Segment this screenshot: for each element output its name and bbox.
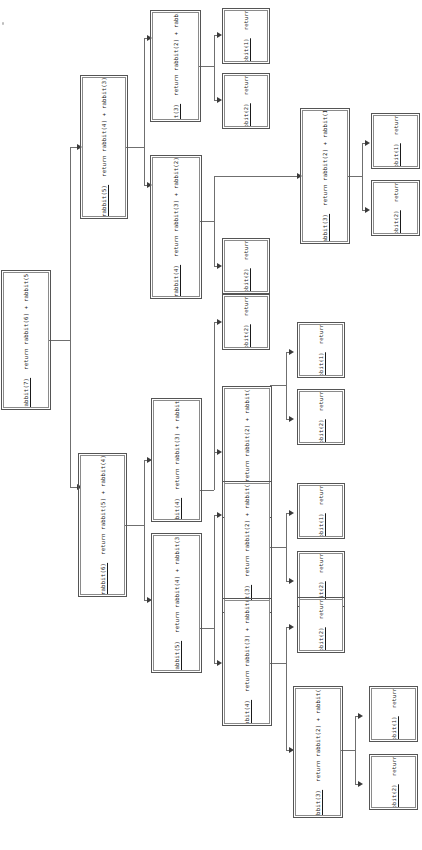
node-title: rabbit(6) [100,559,106,595]
node-body: return rabbit(4) + rabbit(3) [101,77,107,181]
tree-node-n18[interactable]: rabbit(1)return 1 [299,485,343,537]
node-body: return 1 [318,324,324,348]
node-title: rabbit(2) [243,99,249,127]
node-body: return 1 [243,10,249,34]
node-title: rabbit(3) [315,786,321,816]
edge-n20-trunk [270,663,286,664]
node-body: return 1 [318,485,324,509]
recursion-tree-diagram: rabbit(7)return rabbit(6) + rabbit(5) ra… [0,0,422,850]
arrow-n2-n3 [217,32,222,38]
arrow-n10-n11 [147,457,152,463]
tree-node-n10[interactable]: rabbit(6)return rabbit(5) + rabbit(4) [80,455,125,595]
edge-n16-trunk [200,628,214,629]
tree-node-n2[interactable]: rabbit(3)return rabbit(2) + rabbit(1) [152,12,199,120]
node-title: rabbit(4) [174,494,180,520]
arrow-n20-n22 [289,747,294,753]
node-body: return 1 [393,182,399,206]
tree-node-n14[interactable]: rabbit(1)return 1 [299,324,343,376]
edge-n2-spine [214,35,215,100]
node-title: rabbit(1) [391,712,397,740]
node-body: return rabbit(2) + rabbit(1) [173,12,179,100]
edge-n1-trunk [125,147,144,148]
arrow-n10-n16 [147,597,152,603]
arrow-n17-n19 [289,578,294,584]
tree-node-n22[interactable]: rabbit(3)return rabbit(2) + rabbit(1) [295,688,341,816]
tree-node-n16[interactable]: rabbit(5)return rabbit(4) + rabbit(3) [153,535,200,671]
node-title: rabbit(1) [318,509,324,537]
tree-node-n23[interactable]: rabbit(1)return 1 [371,688,416,740]
edge-n0-trunk [48,340,70,341]
node-body: return rabbit(5) + rabbit(4) [100,455,106,559]
edge-n11-spine [214,322,215,490]
node-title: rabbit(2) [391,780,397,808]
edge-n13-spine [286,352,287,419]
arrow-n7-n9 [365,207,370,213]
tree-node-n7[interactable]: rabbit(3)return rabbit(2) + rabbit(1) [302,110,348,242]
tree-node-n21[interactable]: rabbit(2)return 1 [299,599,343,651]
tree-node-n11[interactable]: rabbit(4)return rabbit(3) + rabbit(2) [153,400,200,520]
tree-node-n1[interactable]: rabbit(5)return rabbit(4) + rabbit(3) [82,77,126,217]
node-title: rabbit(3) [173,100,179,120]
tree-node-n20[interactable]: rabbit(4)return rabbit(3) + rabbit(2) [224,600,270,724]
edge-n10-trunk [125,525,144,526]
node-title: rabbit(2) [393,206,399,234]
node-title: rabbit(2) [243,320,249,348]
arrow-n20-n21 [289,624,294,630]
node-body: return 1 [393,115,399,139]
arrow-n2-n4 [217,97,222,103]
arrow-n13-n14 [289,349,294,355]
arrow-n5-n6 [217,263,222,269]
node-title: rabbit(4) [173,261,179,297]
edge-n1-spine [144,38,145,185]
arrow-n17-n18 [289,510,294,516]
edge-n5-spine [214,176,215,266]
node-title: rabbit(5) [174,637,180,671]
arrow-n16-n20 [217,660,222,666]
tree-node-n17[interactable]: rabbit(3)return rabbit(2) + rabbit(1) [224,483,270,611]
tree-node-n6[interactable]: rabbit(2)return 1 [224,240,268,292]
edge-n7-trunk [348,176,362,177]
edge-n7-spine [362,143,363,210]
edge-n11-trunk [200,490,214,491]
node-body: return 1 [318,553,324,577]
edge-n2-trunk [198,66,214,67]
tree-node-n0[interactable]: rabbit(7)return rabbit(6) + rabbit(5) [3,272,49,408]
tree-node-n12[interactable]: rabbit(2)return 1 [224,296,268,348]
node-body: return rabbit(4) + rabbit(3) [174,535,180,637]
tree-node-n9[interactable]: rabbit(2)return 1 [373,182,418,234]
node-title: rabbit(4) [244,696,250,724]
tree-node-n5[interactable]: rabbit(4)return rabbit(3) + rabbit(2) [152,157,200,297]
node-title: rabbit(5) [101,181,107,217]
edge-n0-n10 [70,487,77,488]
arrow-n13-n15 [289,416,294,422]
node-title: rabbit(3) [322,210,328,242]
node-title: rabbit(2) [318,623,324,651]
edge-n10-spine [144,460,145,600]
node-body: return 1 [318,391,324,415]
node-body: return rabbit(3) + rabbit(2) [244,600,250,696]
edge-n0-n1 [70,147,77,148]
node-body: return rabbit(6) + rabbit(5) [23,272,29,374]
edge-n13-trunk [270,385,286,386]
tree-node-n4[interactable]: rabbit(2)return 1 [224,75,268,127]
edge-n17-trunk [270,547,286,548]
arrow-n22-n24 [358,781,363,787]
edge-n22-spine [355,716,356,784]
tree-node-n3[interactable]: rabbit(1)return 1 [224,10,268,62]
edge-n16-spine [214,515,215,663]
edge-n17-spine [286,513,287,581]
tree-node-n19[interactable]: rabbit(2)return 1 [299,553,343,605]
arrow-n7-n8 [365,140,370,146]
node-title: rabbit(1) [393,139,399,167]
arrow-n22-n23 [358,713,363,719]
node-body: return rabbit(2) + rabbit(1) [322,110,328,210]
node-title: rabbit(2) [243,264,249,292]
tree-node-n24[interactable]: rabbit(2)return 1 [371,756,416,808]
node-title: rabbit(7) [23,374,29,408]
arrow-n11-n12 [217,319,222,325]
tree-node-n15[interactable]: rabbit(2)return 1 [299,391,343,443]
node-body: return 1 [391,688,397,712]
tree-node-n8[interactable]: rabbit(1)return 1 [373,115,418,167]
node-body: return 1 [391,756,397,780]
node-body: return rabbit(2) + rabbit(1) [244,388,250,486]
